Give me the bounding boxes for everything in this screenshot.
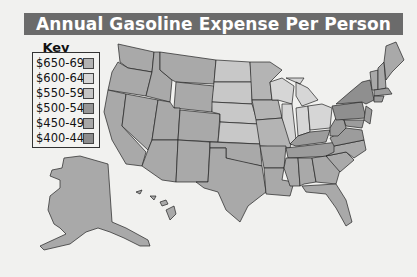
state-north-dakota bbox=[214, 60, 252, 82]
state-new-jersey bbox=[364, 106, 372, 124]
state-alaska bbox=[40, 156, 150, 250]
state-pennsylvania bbox=[332, 102, 366, 120]
us-map bbox=[0, 0, 417, 277]
state-colorado bbox=[178, 110, 220, 142]
state-wyoming bbox=[174, 82, 214, 112]
state-ohio bbox=[308, 104, 332, 130]
state-new-mexico bbox=[176, 140, 210, 182]
state-kansas bbox=[218, 122, 260, 144]
state-maine bbox=[384, 42, 404, 80]
state-south-dakota bbox=[212, 82, 252, 104]
state-indiana bbox=[296, 106, 310, 136]
state-new-york bbox=[336, 80, 374, 104]
state-wisconsin bbox=[270, 78, 294, 104]
state-iowa bbox=[252, 100, 282, 120]
state-connecticut bbox=[374, 96, 384, 102]
state-hawaii bbox=[136, 190, 176, 220]
state-florida bbox=[302, 184, 352, 226]
state-maryland bbox=[344, 120, 364, 128]
state-arkansas bbox=[260, 146, 286, 168]
